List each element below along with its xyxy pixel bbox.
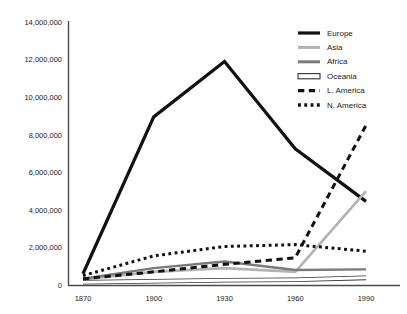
x-axis-tick-label: 1990 (358, 294, 375, 303)
y-axis-tick-label: 0 (58, 281, 62, 290)
x-axis-tick-label: 1900 (145, 294, 162, 303)
y-axis-tick-label: 6,000,000 (29, 168, 62, 177)
y-axis-tick-label: 10,000,000 (24, 93, 62, 102)
legend-label-asia: Asia (327, 43, 343, 52)
legend-label-africa: Africa (327, 57, 348, 66)
x-axis-tick-label: 1930 (216, 294, 233, 303)
x-axis-tick-label: 1870 (75, 294, 92, 303)
y-axis-tick-label: 12,000,000 (24, 55, 62, 64)
y-axis-tick-label: 8,000,000 (29, 131, 62, 140)
y-axis-tick-label: 4,000,000 (29, 206, 62, 215)
legend-label-n-america: N. America (327, 101, 367, 110)
x-axis-tick-label: 1960 (287, 294, 304, 303)
chart-canvas: 02,000,0004,000,0006,000,0008,000,00010,… (0, 0, 407, 314)
legend-label-europe: Europe (327, 29, 353, 38)
legend-swatch-oceania (298, 74, 320, 79)
legend-label-oceania: Oceania (327, 72, 357, 81)
y-axis-tick-label: 2,000,000 (29, 243, 62, 252)
legend-label-l-america: L. America (327, 86, 365, 95)
y-axis-tick-label: 14,000,000 (24, 18, 62, 27)
immigration-line-chart: 02,000,0004,000,0006,000,0008,000,00010,… (0, 0, 407, 314)
